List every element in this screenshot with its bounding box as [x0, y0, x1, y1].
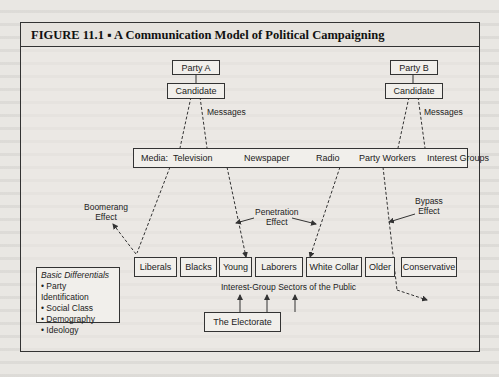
- penetration-line1: Penetration: [255, 207, 298, 217]
- sector-white-collar: White Collar: [306, 257, 362, 277]
- differential-item: • Demography: [41, 314, 115, 325]
- party-b-label: Party B: [399, 63, 429, 73]
- media-newspaper: Newspaper: [244, 149, 290, 167]
- boomerang-effect-label: Boomerang Effect: [84, 202, 128, 222]
- sector-conservative: Conservative: [401, 257, 457, 277]
- sector-label: Laborers: [261, 262, 297, 272]
- penetration-line2: Effect: [255, 217, 298, 227]
- sector-label: Liberals: [140, 262, 172, 272]
- differential-item: • Social Class: [41, 303, 115, 314]
- sector-label: Young: [223, 262, 248, 272]
- boomerang-line1: Boomerang: [84, 202, 128, 212]
- sector-laborers: Laborers: [255, 257, 303, 277]
- sector-label: White Collar: [309, 262, 358, 272]
- sector-older: Older: [365, 257, 395, 277]
- sector-liberals: Liberals: [134, 257, 177, 277]
- electorate-box: The Electorate: [204, 312, 281, 332]
- media-television: Television: [173, 149, 213, 167]
- party-b-box: Party B: [390, 60, 438, 75]
- bypass-line2: Effect: [415, 206, 443, 216]
- sector-young: Young: [219, 257, 252, 277]
- sector-label: Older: [369, 262, 391, 272]
- party-a-label: Party A: [181, 63, 210, 73]
- bypass-effect-label: Bypass Effect: [415, 196, 443, 216]
- sector-blacks: Blacks: [180, 257, 217, 277]
- media-radio: Radio: [316, 149, 340, 167]
- candidate-b-label: Candidate: [393, 86, 434, 96]
- media-interest-groups: Interest Groups: [427, 149, 489, 167]
- media-party-workers: Party Workers: [359, 149, 416, 167]
- party-a-box: Party A: [172, 60, 220, 75]
- media-box: Media: Television Newspaper Radio Party …: [133, 148, 468, 168]
- boomerang-line2: Effect: [84, 212, 128, 222]
- sectors-caption: Interest-Group Sectors of the Public: [221, 282, 356, 292]
- basic-differentials-title: Basic Differentials: [41, 270, 115, 281]
- differential-item: • Party Identification: [41, 281, 115, 303]
- electorate-label: The Electorate: [213, 317, 272, 327]
- differential-item: • Ideology: [41, 325, 115, 336]
- candidate-a-label: Candidate: [175, 86, 216, 96]
- bypass-line1: Bypass: [415, 196, 443, 206]
- sector-label: Blacks: [185, 262, 212, 272]
- sector-label: Conservative: [403, 262, 456, 272]
- messages-a-label: Messages: [207, 107, 246, 117]
- media-prefix: Media:: [141, 149, 168, 167]
- candidate-b-box: Candidate: [385, 83, 443, 99]
- penetration-effect-label: Penetration Effect: [255, 207, 298, 227]
- messages-b-label: Messages: [424, 107, 463, 117]
- candidate-a-box: Candidate: [167, 83, 225, 99]
- basic-differentials-box: Basic Differentials • Party Identificati…: [36, 267, 120, 323]
